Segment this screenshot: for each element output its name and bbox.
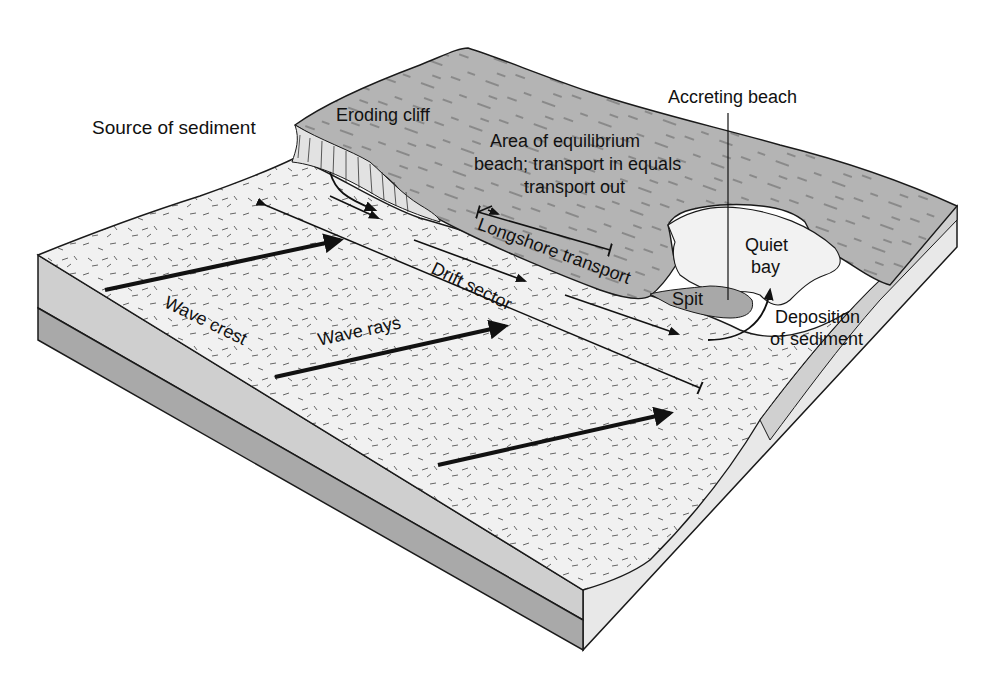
label-equilibrium-line1: Area of equilibrium bbox=[490, 131, 640, 151]
label-spit: Spit bbox=[672, 289, 703, 309]
label-equilibrium-line3: transport out bbox=[524, 177, 625, 197]
label-eroding-cliff: Eroding cliff bbox=[336, 105, 430, 125]
label-source-of-sediment: Source of sediment bbox=[92, 118, 256, 138]
coastal-block-diagram: Source of sediment Eroding cliff Area of… bbox=[0, 0, 984, 683]
label-quiet-bay-1: Quiet bbox=[745, 235, 788, 255]
label-deposition-line1: Deposition bbox=[775, 307, 860, 327]
label-quiet-bay-2: bay bbox=[751, 257, 780, 277]
label-equilibrium-line2: beach; transport in equals bbox=[474, 154, 681, 174]
label-deposition-line2: of sediment bbox=[770, 329, 863, 349]
label-accreting-beach: Accreting beach bbox=[668, 87, 797, 107]
